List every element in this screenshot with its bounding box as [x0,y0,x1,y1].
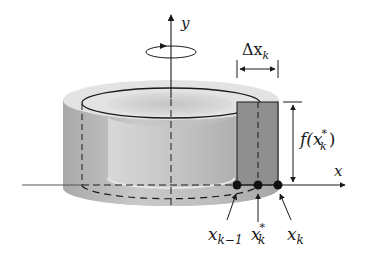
point-x-k-minus-1 [233,181,242,190]
label-x-k-minus-1: xk−1 [208,224,243,247]
pointer-x-k [280,194,291,220]
height-label: f(x*k) [298,127,335,153]
delta-x-indicator: Δxk [237,40,278,78]
point-x-k [274,181,283,190]
x-axis-label: x [334,162,343,180]
delta-x-label: Δxk [242,40,270,62]
label-x-k: xk [287,224,304,247]
point-x-k-star [254,181,263,190]
y-axis-label: y [180,14,190,32]
height-indicator: f(x*k) [283,102,335,182]
label-x-k-star: x*k [251,221,266,247]
shell-method-diagram: x y Δxk f(x*k) xk−1 x*k xk [0,0,368,261]
